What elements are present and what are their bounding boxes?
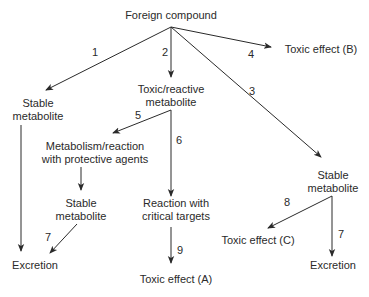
edge-label-2: 2 — [162, 46, 168, 58]
node-toxic-effect-b: Toxic effect (B) — [285, 43, 358, 56]
edge-label-4: 4 — [248, 48, 254, 60]
node-line-1: Stable — [308, 169, 359, 182]
node-stable-metabolite-left: Stable metabolite — [13, 97, 64, 123]
node-line-2: critical targets — [142, 210, 210, 223]
node-line-2: metabolite — [308, 182, 359, 195]
arrow-1 — [46, 27, 171, 90]
node-line-1: Stable — [56, 197, 107, 210]
arrow-8 — [268, 196, 332, 228]
node-line-2: metabolite — [56, 210, 107, 223]
node-stable-metabolite-middle: Stable metabolite — [56, 197, 107, 223]
node-line-2: with protective agents — [42, 153, 148, 166]
edge-label-7-right: 7 — [338, 228, 344, 240]
arrow-4 — [171, 27, 271, 47]
flowchart-canvas: Foreign compound Toxic effect (B) Stable… — [0, 0, 369, 297]
node-toxic-reactive-metabolite: Toxic/reactive metabolite — [138, 83, 205, 109]
node-excretion-left: Excretion — [12, 259, 58, 272]
edge-label-1: 1 — [92, 46, 98, 58]
edge-label-6: 6 — [176, 134, 182, 146]
arrow-7-left — [50, 224, 77, 253]
node-line-1: Reaction with — [142, 197, 210, 210]
node-line-2: metabolite — [13, 110, 64, 123]
node-toxic-effect-c: Toxic effect (C) — [221, 234, 294, 247]
node-line-1: Toxic/reactive — [138, 83, 205, 96]
edge-label-7-left: 7 — [45, 231, 51, 243]
edge-label-5: 5 — [135, 109, 141, 121]
edge-label-8: 8 — [284, 196, 290, 208]
node-toxic-effect-a: Toxic effect (A) — [140, 273, 213, 286]
edge-label-3: 3 — [249, 85, 255, 97]
node-metabolism-reaction: Metabolism/reaction with protective agen… — [42, 140, 148, 166]
arrow-5 — [113, 110, 171, 133]
node-excretion-right: Excretion — [310, 259, 356, 272]
node-stable-metabolite-right: Stable metabolite — [308, 169, 359, 195]
node-foreign-compound: Foreign compound — [125, 9, 217, 22]
node-reaction-critical-targets: Reaction with critical targets — [142, 197, 210, 223]
node-line-1: Metabolism/reaction — [42, 140, 148, 153]
edge-label-9: 9 — [177, 244, 183, 256]
node-line-2: metabolite — [138, 96, 205, 109]
node-line-1: Stable — [13, 97, 64, 110]
